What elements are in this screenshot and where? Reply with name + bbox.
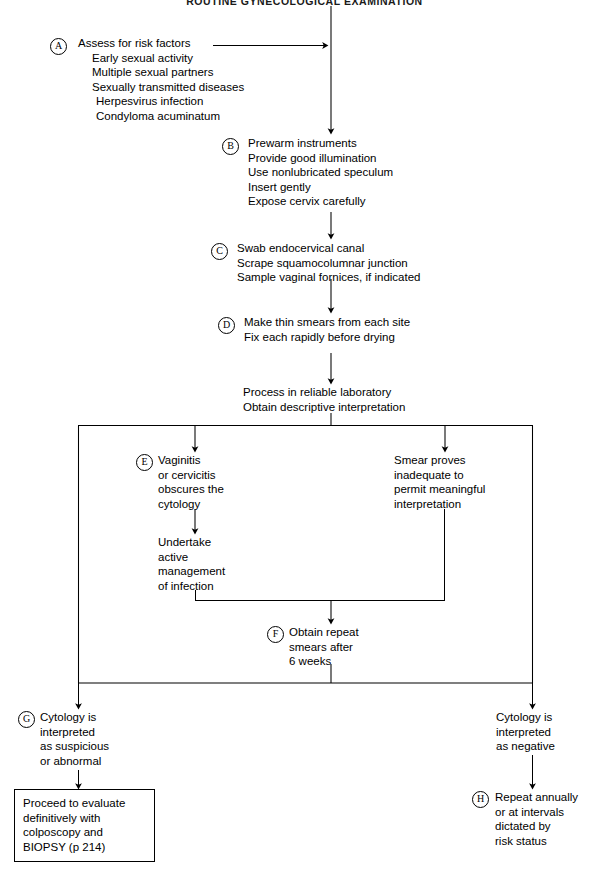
node-b-line-1: Provide good illumination	[248, 151, 393, 166]
node-smear-line-0: Smear proves	[394, 453, 485, 468]
step-badge-e: E	[136, 454, 153, 471]
node-e: E Vaginitis or cervicitis obscures the c…	[136, 453, 224, 511]
diagram-title: ROUTINE GYNECOLOGICAL EXAMINATION	[0, 0, 609, 7]
node-process-line-1: Obtain descriptive interpretation	[243, 400, 405, 415]
step-badge-g: G	[18, 711, 35, 728]
node-proceed-line-1: definitively with	[23, 811, 146, 826]
node-proceed-colposcopy-box: Proceed to evaluate definitively with co…	[14, 789, 155, 862]
node-undertake-line-0: Undertake	[158, 535, 225, 550]
node-h-text: Repeat annually or at intervals dictated…	[495, 790, 578, 848]
node-a-line-4: Herpesvirus infection	[78, 94, 244, 109]
node-proceed-line-2: colposcopy and	[23, 825, 146, 840]
node-cytology-negative: Cytology is interpreted as negative	[496, 710, 555, 754]
node-undertake-line-2: management	[158, 564, 225, 579]
node-h: H Repeat annually or at intervals dictat…	[472, 790, 578, 848]
node-process-lab: Process in reliable laboratory Obtain de…	[243, 385, 405, 414]
node-g: G Cytology is interpreted as suspicious …	[18, 710, 109, 768]
node-g-line-3: or abnormal	[40, 754, 109, 769]
step-badge-a: A	[50, 38, 67, 55]
node-c-line-2: Sample vaginal fornices, if indicated	[237, 270, 420, 285]
node-f-line-1: smears after	[289, 640, 359, 655]
node-a-line-0: Assess for risk factors	[78, 36, 244, 51]
node-d: D Make thin smears from each site Fix ea…	[218, 315, 410, 344]
node-e-line-1: or cervicitis	[158, 468, 224, 483]
node-c: C Swab endocervical canal Scrape squamoc…	[211, 241, 420, 285]
node-b-line-0: Prewarm instruments	[248, 136, 393, 151]
node-smear-inadequate: Smear proves inadequate to permit meanin…	[394, 453, 485, 511]
node-a-text: Assess for risk factors Early sexual act…	[78, 36, 244, 124]
node-c-line-1: Scrape squamocolumnar junction	[237, 256, 420, 271]
node-a-line-3: Sexually transmitted diseases	[78, 80, 244, 95]
node-c-line-0: Swab endocervical canal	[237, 241, 420, 256]
node-d-line-0: Make thin smears from each site	[244, 315, 410, 330]
node-b: B Prewarm instruments Provide good illum…	[222, 136, 393, 209]
node-b-text: Prewarm instruments Provide good illumin…	[248, 136, 393, 209]
node-a-line-5: Condyloma acuminatum	[78, 109, 244, 124]
node-negative-line-0: Cytology is	[496, 710, 555, 725]
node-c-text: Swab endocervical canal Scrape squamocol…	[237, 241, 420, 285]
node-undertake-treatment: Undertake active management of infection	[158, 535, 225, 593]
node-h-line-3: risk status	[495, 834, 578, 849]
node-g-line-0: Cytology is	[40, 710, 109, 725]
node-e-text: Vaginitis or cervicitis obscures the cyt…	[158, 453, 224, 511]
step-badge-f: F	[267, 626, 284, 643]
node-proceed-text: Proceed to evaluate definitively with co…	[23, 796, 146, 854]
node-h-line-1: or at intervals	[495, 805, 578, 820]
step-badge-b: B	[222, 138, 239, 155]
node-negative-text: Cytology is interpreted as negative	[496, 710, 555, 754]
node-a-line-1: Early sexual activity	[78, 51, 244, 66]
node-b-line-2: Use nonlubricated speculum	[248, 165, 393, 180]
step-badge-c: C	[211, 243, 228, 260]
node-process-text: Process in reliable laboratory Obtain de…	[243, 385, 405, 414]
node-smear-line-1: inadequate to	[394, 468, 485, 483]
node-a: A Assess for risk factors Early sexual a…	[50, 36, 244, 124]
step-badge-d: D	[218, 317, 235, 334]
node-g-line-1: interpreted	[40, 725, 109, 740]
node-process-line-0: Process in reliable laboratory	[243, 385, 405, 400]
node-undertake-text: Undertake active management of infection	[158, 535, 225, 593]
node-h-line-0: Repeat annually	[495, 790, 578, 805]
node-f-line-2: 6 weeks	[289, 654, 359, 669]
node-smear-line-3: interpretation	[394, 497, 485, 512]
node-h-line-2: dictated by	[495, 819, 578, 834]
node-d-line-1: Fix each rapidly before drying	[244, 330, 410, 345]
node-d-text: Make thin smears from each site Fix each…	[244, 315, 410, 344]
node-b-line-3: Insert gently	[248, 180, 393, 195]
node-f-text: Obtain repeat smears after 6 weeks	[289, 625, 359, 669]
node-g-text: Cytology is interpreted as suspicious or…	[40, 710, 109, 768]
node-a-line-2: Multiple sexual partners	[78, 65, 244, 80]
node-e-line-3: cytology	[158, 497, 224, 512]
node-g-line-2: as suspicious	[40, 739, 109, 754]
node-b-line-4: Expose cervix carefully	[248, 194, 393, 209]
node-f-line-0: Obtain repeat	[289, 625, 359, 640]
node-undertake-line-3: of infection	[158, 579, 225, 594]
node-smear-line-2: permit meaningful	[394, 482, 485, 497]
flowchart-canvas: ROUTINE GYNECOLOGICAL EXAMINATION	[0, 0, 609, 883]
step-badge-h: H	[472, 791, 489, 808]
node-smear-text: Smear proves inadequate to permit meanin…	[394, 453, 485, 511]
node-proceed-line-0: Proceed to evaluate	[23, 796, 146, 811]
node-f: F Obtain repeat smears after 6 weeks	[267, 625, 359, 669]
node-proceed-line-3: BIOPSY (p 214)	[23, 840, 146, 855]
node-undertake-line-1: active	[158, 550, 225, 565]
node-e-line-2: obscures the	[158, 482, 224, 497]
node-e-line-0: Vaginitis	[158, 453, 224, 468]
node-negative-line-2: as negative	[496, 739, 555, 754]
node-negative-line-1: interpreted	[496, 725, 555, 740]
